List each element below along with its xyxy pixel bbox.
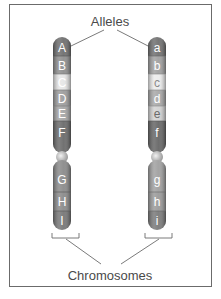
bracket-right	[145, 233, 172, 238]
bracket-left	[52, 233, 79, 238]
chromosome-diagram: Alleles A B C D	[0, 0, 221, 299]
allele-F: F	[58, 126, 65, 140]
allele-b: b	[154, 59, 161, 73]
chromosomes-label: Chromosomes	[68, 268, 153, 283]
alleles-label: Alleles	[91, 14, 130, 29]
allele-A: A	[58, 41, 66, 55]
allele-B: B	[58, 59, 66, 73]
allele-a: a	[154, 41, 161, 55]
allele-g: g	[154, 173, 161, 187]
allele-e: e	[154, 107, 161, 121]
allele-i: i	[156, 214, 159, 228]
chromosomes-leader-left	[66, 239, 101, 264]
allele-H: H	[58, 195, 67, 209]
allele-d: d	[154, 92, 161, 106]
allele-D: D	[58, 92, 67, 106]
chromosome-left: A B C D E F G H I	[53, 37, 71, 230]
alleles-leader-left	[71, 30, 104, 46]
chromosome-right: a b c d e f g h i	[148, 37, 166, 230]
chromosomes-leader-right	[121, 239, 159, 264]
allele-E: E	[58, 107, 66, 121]
alleles-leader-right	[117, 30, 150, 47]
allele-G: G	[57, 173, 66, 187]
allele-C: C	[58, 76, 67, 90]
allele-c: c	[154, 76, 160, 90]
allele-h: h	[154, 195, 161, 209]
allele-I: I	[60, 214, 63, 228]
